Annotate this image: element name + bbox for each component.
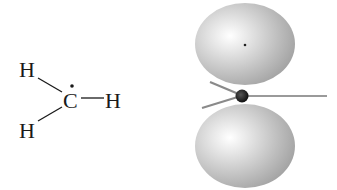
unpaired-electron-dot: [244, 44, 247, 47]
methyl-radical-figure: H C H H: [0, 0, 337, 190]
carbon-nucleus-icon: [236, 90, 249, 103]
orbital-model: [0, 0, 337, 190]
p-orbital-bottom-lobe-icon: [195, 104, 295, 188]
